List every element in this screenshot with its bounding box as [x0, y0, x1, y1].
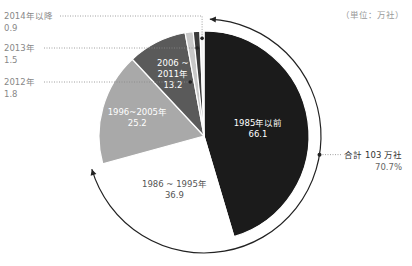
slice-label: 25.2 [128, 118, 147, 128]
slice-label: 2011年 [158, 69, 189, 79]
slice-label: 36.9 [165, 190, 184, 200]
total-annotation: 合計 103 万社70.7% [318, 150, 402, 172]
pie-chart: 1985年以前66.11986 ~ 1995年36.91996~2005年25.… [0, 0, 412, 266]
leader-dot [200, 37, 204, 41]
pie-slices [99, 31, 309, 241]
leader-dot [188, 80, 192, 84]
annotation-dot [318, 153, 322, 157]
outside-label-name: 2012年 [4, 77, 35, 87]
outside-label-value: 1.5 [4, 55, 18, 65]
outside-label-name: 2014年以降 [4, 11, 53, 21]
unit-label: （単位：万社） [341, 10, 404, 20]
outside-label-name: 2013年 [4, 43, 35, 53]
slice-label: 2006 ~ [157, 58, 188, 68]
slice-label: 1996~2005年 [108, 107, 167, 117]
slice-label: 13.2 [163, 80, 182, 90]
annotation-total: 合計 103 万社 [344, 150, 402, 160]
outside-label-value: 0.9 [4, 23, 18, 33]
slice-label: 1985年以前 [234, 118, 283, 128]
outside-label-value: 1.8 [4, 89, 18, 99]
slice-label: 1986 ~ 1995年 [142, 179, 207, 189]
slice-label: 66.1 [249, 129, 268, 139]
arrowhead-icon [210, 16, 216, 22]
leader-dot [195, 46, 199, 50]
annotation-percent: 70.7% [375, 162, 402, 172]
